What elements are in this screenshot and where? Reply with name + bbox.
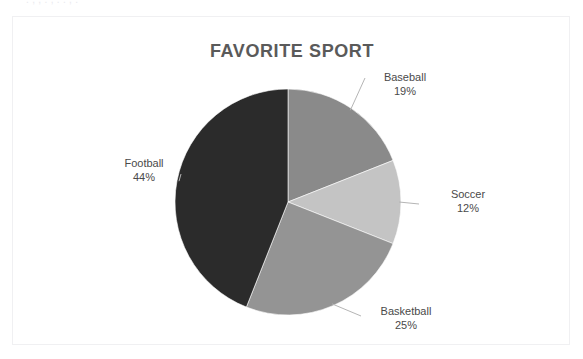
pie-label-football-name: Football [124, 157, 163, 169]
pie-label-baseball: Baseball 19% [360, 70, 450, 98]
leader-line-soccer [399, 202, 419, 204]
pie-label-soccer-name: Soccer [451, 188, 485, 200]
pie-label-basketball-name: Basketball [381, 305, 432, 317]
pie-label-basketball: Basketball 25% [354, 304, 458, 332]
clipped-header-text: . , , . , . . , . [0, 0, 583, 13]
pie-label-soccer: Soccer 12% [423, 187, 513, 215]
pie-label-soccer-value: 12% [423, 201, 513, 215]
pie-label-basketball-value: 25% [354, 318, 458, 332]
pie-label-baseball-value: 19% [360, 84, 450, 98]
clipped-header-text-content: . , , . , . . , . [26, 0, 78, 5]
pie-label-baseball-name: Baseball [384, 71, 426, 83]
pie-label-football: Football 44% [96, 156, 192, 184]
chart-frame: FAVORITE SPORT Baseball 19% Soccer 12% B… [12, 16, 570, 345]
pie-slice-group [175, 89, 401, 315]
pie-label-football-value: 44% [96, 170, 192, 184]
